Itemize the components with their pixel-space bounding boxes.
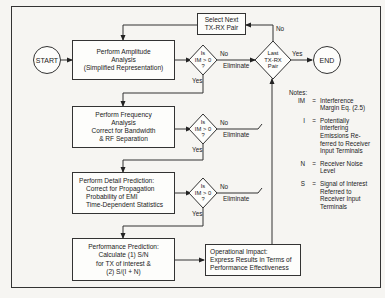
detail-prediction-box: Perform Detail Prediction: Correct for P… — [72, 172, 175, 214]
diamond-line: ? — [189, 63, 217, 70]
diamond-line: Is — [189, 119, 217, 126]
notes-legend: Notes: IM = Interference Margin Eq. (2.5… — [283, 89, 383, 215]
diamond-line: IM > 0 — [189, 190, 217, 197]
start-label: START — [36, 57, 58, 64]
box-line: Analysis — [111, 56, 136, 64]
eliminate-label-2: Eliminate — [223, 131, 249, 138]
no-label-last: No — [276, 25, 284, 32]
emi-analysis-flowchart: START END Select Next TX-RX Pair Perform… — [0, 0, 385, 298]
box-line: Probability of EMI — [79, 193, 174, 201]
eliminate-label-3: Eliminate — [223, 195, 249, 202]
box-line: Perform Amplitude — [96, 48, 150, 56]
start-node: START — [33, 46, 61, 74]
yes-label-2: Yes — [192, 146, 202, 153]
yes-label-1: Yes — [192, 77, 202, 84]
note-i: I = Potentially Interfering Emissions Re… — [283, 117, 383, 155]
decision-3-text: Is IM > 0 ? — [189, 183, 217, 203]
decision-1-text: Is IM > 0 ? — [189, 50, 217, 70]
note-value: Potentially Interfering Emissions Re- fe… — [320, 117, 370, 155]
note-key: N — [283, 160, 308, 175]
note-key: S — [283, 180, 308, 210]
note-s: S = Signal of Interest Referred to Recei… — [283, 180, 383, 210]
diamond-line: Is — [189, 50, 217, 57]
box-line: (Simplified Representation) — [84, 64, 164, 72]
note-eq: = — [308, 117, 320, 155]
note-line: Signal of Interest — [320, 180, 367, 188]
note-line: Potentially — [320, 117, 370, 125]
yes-label-last: Yes — [292, 50, 302, 57]
no-label-1: No — [220, 50, 228, 57]
frequency-analysis-box: Perform Frequency Analysis Correct for B… — [72, 106, 175, 148]
diamond-line: IM > 0 — [189, 57, 217, 64]
note-im: IM = Interference Margin Eq. (2.5) — [283, 97, 383, 112]
box-line: Express Results in Terms of — [210, 256, 300, 264]
box-line: Perform Frequency — [95, 111, 151, 119]
box-line: & RF Separation — [99, 135, 148, 143]
note-eq: = — [308, 180, 320, 210]
note-line: Emissions Re- — [320, 132, 370, 140]
note-line: Interference — [320, 97, 365, 105]
diamond-line: Is — [189, 183, 217, 190]
note-value: Receiver Noise Level — [320, 160, 363, 175]
operational-impact-box: Operational Impact: Express Results in T… — [205, 244, 301, 276]
note-line: Receiver Input — [320, 195, 367, 203]
note-line: Input Terminals — [320, 147, 370, 155]
diamond-line: ? — [189, 196, 217, 203]
box-line: Performance Prediction: — [88, 243, 159, 251]
box-line: Time-Dependent Statistics — [79, 201, 174, 209]
no-label-2: No — [220, 119, 228, 126]
box-line: TX-RX Pair — [205, 24, 238, 32]
box-line: Calculate (1) S/N — [98, 251, 148, 259]
note-key: IM — [283, 97, 308, 112]
performance-prediction-box: Performance Prediction: Calculate (1) S/… — [72, 238, 175, 281]
note-line: Terminals — [320, 203, 367, 211]
diamond-line: ? — [189, 132, 217, 139]
note-key: I — [283, 117, 308, 155]
note-eq: = — [308, 97, 320, 112]
end-label: END — [320, 57, 335, 64]
box-line: Correct for Propagation — [79, 185, 174, 193]
note-eq: = — [308, 160, 320, 175]
select-next-pair-box: Select Next TX-RX Pair — [197, 13, 246, 35]
amplitude-analysis-box: Perform Amplitude Analysis (Simplified R… — [72, 40, 175, 80]
end-node: END — [313, 46, 341, 74]
notes-title: Notes: — [289, 89, 383, 97]
box-line: Perform Detail Prediction: — [79, 177, 174, 185]
note-n: N = Receiver Noise Level — [283, 160, 383, 175]
diamond-line: TX-RX — [255, 57, 291, 64]
note-line: Level — [320, 167, 363, 175]
diamond-line: Last — [255, 50, 291, 57]
box-line: for TX of interest & — [96, 260, 151, 268]
note-line: Referred to — [320, 188, 367, 196]
note-line: Interfering — [320, 124, 370, 132]
note-line: Receiver Noise — [320, 160, 363, 168]
eliminate-label-1: Eliminate — [223, 62, 249, 69]
box-line: Performance Effectiveness — [210, 264, 300, 272]
box-line: Correct for Bandwidth — [92, 127, 156, 135]
yes-label-3: Yes — [192, 210, 202, 217]
box-line: Analysis — [111, 119, 136, 127]
decision-2-text: Is IM > 0 ? — [189, 119, 217, 139]
last-pair-text: Last TX-RX Pair — [255, 50, 291, 70]
box-line: Operational Impact: — [210, 248, 300, 256]
box-line: (2) S/(I + N) — [106, 268, 141, 276]
note-line: Margin Eq. (2.5) — [320, 104, 365, 112]
diamond-line: IM > 0 — [189, 126, 217, 133]
diamond-line: Pair — [255, 63, 291, 70]
note-value: Signal of Interest Referred to Receiver … — [320, 180, 367, 210]
note-value: Interference Margin Eq. (2.5) — [320, 97, 365, 112]
box-line: Select Next — [205, 16, 239, 24]
no-label-3: No — [220, 183, 228, 190]
note-line: ferred to Receiver — [320, 140, 370, 148]
